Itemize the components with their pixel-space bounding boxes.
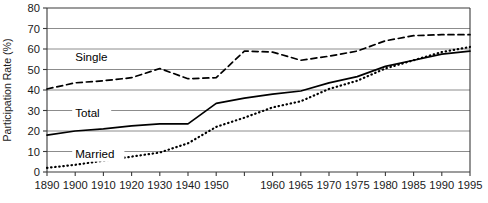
x-axis-ticks: 1890190019101920193019401950196019651970… <box>35 172 483 191</box>
y-tick-label: 10 <box>28 146 40 158</box>
x-tick-label: 1995 <box>458 179 483 191</box>
y-tick-label: 60 <box>28 43 40 55</box>
x-tick-label: 1975 <box>345 179 370 191</box>
x-tick-label: 1950 <box>204 179 229 191</box>
y-tick-label: 50 <box>28 64 40 76</box>
x-tick-label: 1940 <box>176 179 201 191</box>
x-tick-label: 1890 <box>35 179 60 191</box>
x-tick-label: 1985 <box>401 179 426 191</box>
x-tick-label: 1990 <box>429 179 454 191</box>
x-tick-label: 1970 <box>317 179 342 191</box>
y-tick-label: 40 <box>28 84 40 96</box>
y-tick-label: 80 <box>28 2 40 14</box>
y-tick-label: 30 <box>28 105 40 117</box>
y-tick-label: 0 <box>34 166 40 178</box>
x-tick-label: 1910 <box>91 179 116 191</box>
y-tick-label: 20 <box>28 125 40 137</box>
y-axis-title: Participation Rate (%) <box>1 38 13 141</box>
series-label-married: Married <box>75 147 114 160</box>
series-label-total: Total <box>75 106 100 119</box>
x-tick-label: 1930 <box>147 179 172 191</box>
series-label-single: Single <box>75 50 107 63</box>
x-tick-label: 1980 <box>373 179 398 191</box>
x-tick-label: 1900 <box>63 179 88 191</box>
y-tick-label: 70 <box>28 23 40 35</box>
y-axis-ticks: 01020304050607080 <box>28 2 47 178</box>
participation-rate-line-chart: 01020304050607080 1890190019101920193019… <box>0 0 488 203</box>
x-tick-label: 1960 <box>260 179 285 191</box>
x-tick-label: 1920 <box>119 179 144 191</box>
chart-screenshot: 01020304050607080 1890190019101920193019… <box>0 0 488 203</box>
x-tick-label: 1965 <box>288 179 313 191</box>
